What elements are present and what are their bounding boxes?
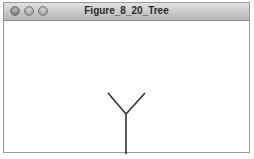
title-bar[interactable]: Figure_8_20_Tree [4,3,249,21]
app-window: Figure_8_20_Tree [3,2,250,153]
drawing-canvas [4,21,249,152]
tree-right-branch [126,93,145,114]
tree-left-branch [108,93,126,114]
tree-drawing [4,21,249,154]
window-title: Figure_8_20_Tree [4,5,249,16]
